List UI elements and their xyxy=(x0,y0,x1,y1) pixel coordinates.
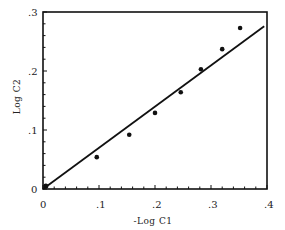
x-axis-label: -Log C1 xyxy=(133,216,172,226)
axis-ticks xyxy=(43,12,267,189)
data-point xyxy=(220,47,225,52)
data-point xyxy=(127,132,132,137)
x-tick-labels: 0 .1 .2 .3 .4 xyxy=(40,199,274,210)
data-point xyxy=(178,90,183,95)
data-point xyxy=(94,155,99,160)
data-point xyxy=(238,26,243,31)
data-point xyxy=(43,183,48,188)
y-tick-0: 0 xyxy=(31,184,37,195)
x-tick-4: .4 xyxy=(264,199,274,210)
y-axis-label: Log C2 xyxy=(12,79,22,115)
data-points xyxy=(43,26,242,189)
x-tick-3: .3 xyxy=(208,199,218,210)
x-tick-2: .2 xyxy=(152,199,162,210)
y-tick-1: .1 xyxy=(28,125,38,136)
plot-frame xyxy=(43,12,267,189)
x-tick-0: 0 xyxy=(40,199,46,210)
y-tick-2: .2 xyxy=(28,66,38,77)
scatter-chart: 0 .1 .2 .3 .4 0 .1 .2 .3 -Log C1 Log C2 xyxy=(0,0,285,230)
y-tick-3: .3 xyxy=(28,7,38,18)
data-point xyxy=(153,111,158,116)
data-point xyxy=(199,67,204,72)
fit-line xyxy=(43,26,264,189)
y-tick-labels: 0 .1 .2 .3 xyxy=(28,7,38,195)
x-tick-1: .1 xyxy=(96,199,106,210)
